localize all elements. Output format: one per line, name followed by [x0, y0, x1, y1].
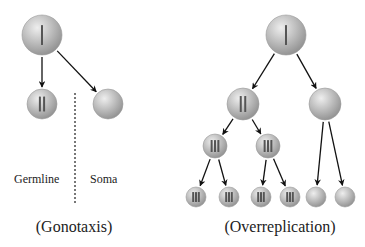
chromosome-icon [267, 140, 269, 152]
arrow-icon [263, 160, 266, 185]
diagram-canvas [0, 0, 365, 247]
germline-cell [251, 187, 271, 207]
arrow-icon [200, 159, 210, 186]
arrow-icon [223, 119, 233, 134]
arrow-icon [219, 160, 226, 186]
chromosome-icon [195, 192, 197, 202]
chromosome-icon [257, 192, 259, 202]
lineage-arrows [42, 51, 342, 186]
chromosome-icon [198, 192, 200, 202]
chromosome-icon [214, 140, 216, 152]
germline-label: Germline [14, 172, 59, 187]
arrow-icon [253, 54, 275, 89]
arrow-icon [297, 54, 316, 88]
somatic-cell [335, 187, 355, 207]
chromosome-icon [228, 192, 230, 202]
somatic-cell [93, 89, 123, 119]
chromosome-icon [292, 192, 294, 202]
chromosome-icon [263, 192, 265, 202]
germline-cell [22, 15, 62, 55]
chromosome-icon [270, 140, 272, 152]
chromosome-icon [244, 96, 246, 112]
overreplication-caption: (Overreplication) [224, 218, 335, 236]
chromosome-icon [285, 25, 287, 45]
chromosome-icon [240, 96, 242, 112]
cells [22, 15, 355, 207]
chromosome-icon [289, 192, 291, 202]
germline-cell [266, 15, 306, 55]
chromosome-icon [225, 192, 227, 202]
arrow-icon [317, 122, 323, 185]
germline-cell [280, 187, 300, 207]
germline-cell [203, 134, 227, 158]
somatic-cell [306, 187, 326, 207]
arrow-icon [252, 119, 261, 134]
germline-cell [27, 89, 57, 119]
chromosome-icon [217, 140, 219, 152]
germline-cell [186, 187, 206, 207]
chromosome-icon [41, 25, 43, 45]
chromosome-icon [260, 192, 262, 202]
germline-cell [256, 134, 280, 158]
chromosome-icon [286, 192, 288, 202]
germline-cell [219, 187, 239, 207]
chromosome-icon [192, 192, 194, 202]
chromosome-icon [211, 140, 213, 152]
chromosome-icon [264, 140, 266, 152]
soma-label: Soma [90, 172, 117, 187]
chromosome-icon [39, 97, 41, 112]
chromosome-icon [231, 192, 233, 202]
germline-cell [227, 88, 259, 120]
arrow-icon [329, 122, 343, 186]
somatic-cell [309, 88, 341, 120]
chromosome-icon [43, 97, 45, 112]
gonotaxis-caption: (Gonotaxis) [36, 218, 112, 236]
arrow-icon [57, 51, 96, 92]
arrow-icon [274, 159, 286, 186]
